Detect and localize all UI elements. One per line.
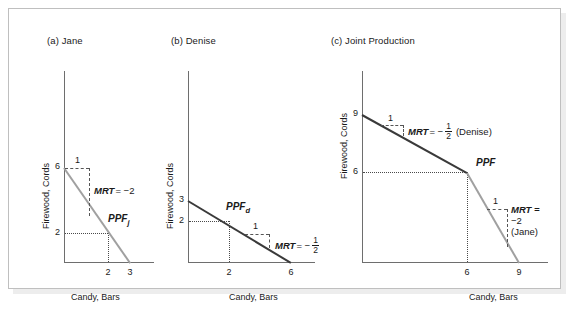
x-axis-label-jane: Candy, Bars: [71, 292, 120, 302]
y-tick-denise-2: 2: [171, 215, 184, 225]
mrt-label-jane: MRT = −2: [94, 185, 134, 196]
panel-denise: (b) Denise Firewood, Cords Candy, Bars 3…: [159, 9, 319, 290]
x-tick-jane-3: 3: [122, 267, 138, 277]
step-drop-jane-joint: [507, 209, 508, 247]
mrt-owner-denise-joint: (Denise): [456, 126, 492, 137]
mrt-label-jane-joint: MRT = −2 (Jane): [511, 204, 540, 237]
step-run-jane: [65, 168, 89, 169]
mrt-text-jane-joint: MRT =: [511, 204, 540, 215]
mrt-value-jane: = −2: [115, 185, 134, 196]
mrt-text-denise-joint: MRT: [408, 126, 428, 137]
mrt-fraction-denise: 1 2: [312, 236, 319, 254]
x-axis-jane: [64, 262, 154, 263]
y-axis-denise: [188, 71, 189, 262]
ppf-label-joint: PPF: [476, 157, 495, 168]
y-tick-denise-3: 3: [171, 194, 184, 204]
panel-jane: (a) Jane Firewood, Cords Candy, Bars 6 2…: [9, 9, 159, 290]
step-number-jane-joint: 1: [493, 196, 498, 206]
panel-joint: (c) Joint Production Firewood, Cords Can…: [319, 9, 562, 290]
y-tick-joint-6: 6: [345, 166, 358, 176]
guide-horizontal-jane: [65, 233, 108, 234]
step-number-jane: 1: [75, 155, 80, 165]
mrt-label-denise: MRT = − 1 2: [275, 236, 319, 254]
ppf-label-text-denise: PPF: [226, 201, 245, 212]
x-tick-joint-6: 6: [459, 267, 475, 277]
mrt-text-jane: MRT: [94, 185, 114, 196]
step-run-denise-joint: [381, 125, 403, 126]
x-axis-denise: [188, 262, 315, 263]
guide-horizontal-joint: [363, 172, 467, 173]
mrt-fraction-denise-joint: 1 2: [445, 122, 452, 140]
step-number-denise: 1: [253, 221, 258, 231]
ppf-label-denise: PPFd: [226, 201, 250, 215]
ppf-label-subscript-jane: j: [127, 218, 129, 227]
ppf-label-text-jane: PPF: [108, 213, 127, 224]
x-axis-label-joint: Candy, Bars: [469, 292, 518, 302]
step-drop-jane: [89, 168, 90, 216]
mrt-fraction-numerator-denise-joint: 1: [445, 122, 452, 131]
mrt-text-denise: MRT: [275, 240, 295, 251]
x-axis-label-denise: Candy, Bars: [229, 292, 278, 302]
step-run-jane-joint: [487, 209, 507, 210]
ppf-label-jane: PPFj: [108, 213, 130, 227]
guide-vertical-joint: [467, 172, 468, 262]
x-tick-joint-9: 9: [511, 267, 527, 277]
step-drop-denise-joint: [403, 125, 404, 136]
panel-title-joint: (c) Joint Production: [331, 35, 415, 46]
mrt-owner-jane-joint: (Jane): [511, 226, 540, 237]
mrt-value-jane-joint: −2: [511, 215, 540, 226]
panel-title-jane: (a) Jane: [47, 35, 83, 46]
panel-title-denise: (b) Denise: [171, 35, 216, 46]
figure-frame: (a) Jane Firewood, Cords Candy, Bars 6 2…: [8, 8, 561, 289]
y-tick-jane-6: 6: [47, 161, 60, 171]
y-axis-label-jane: Firewood, Cords: [41, 163, 51, 229]
y-axis-joint: [362, 71, 363, 262]
mrt-label-denise-joint: MRT = − 1 2 (Denise): [408, 122, 492, 140]
ppf-label-subscript-denise: d: [245, 206, 250, 215]
y-tick-jane-2: 2: [47, 227, 60, 237]
x-tick-denise-6: 6: [283, 267, 299, 277]
mrt-fraction-denominator-denise-joint: 2: [445, 131, 452, 141]
x-tick-denise-2: 2: [221, 267, 237, 277]
mrt-fraction-denominator-denise: 2: [312, 245, 319, 255]
mrt-fraction-numerator-denise: 1: [312, 236, 319, 245]
step-run-denise: [245, 234, 269, 235]
x-tick-jane-2: 2: [100, 267, 116, 277]
mrt-equals-denise: = −: [296, 240, 310, 251]
ppf-label-text-joint: PPF: [476, 157, 495, 168]
step-number-denise-joint: 1: [388, 113, 393, 123]
guide-vertical-jane: [108, 233, 109, 262]
step-drop-denise: [269, 234, 270, 248]
mrt-equals-denise-joint: = −: [429, 126, 443, 137]
y-tick-joint-9: 9: [345, 108, 358, 118]
